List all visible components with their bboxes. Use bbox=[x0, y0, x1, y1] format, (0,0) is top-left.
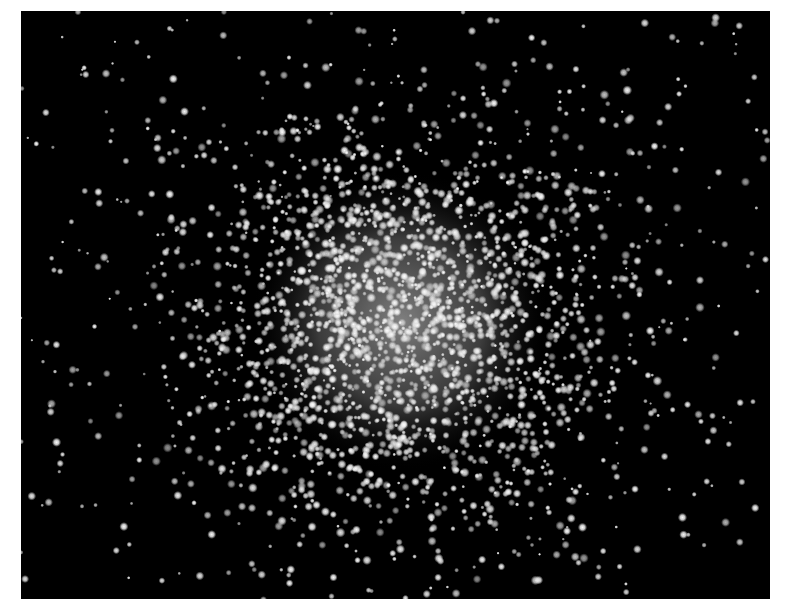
star-field-canvas bbox=[21, 11, 770, 599]
star-cluster-image bbox=[21, 11, 770, 599]
